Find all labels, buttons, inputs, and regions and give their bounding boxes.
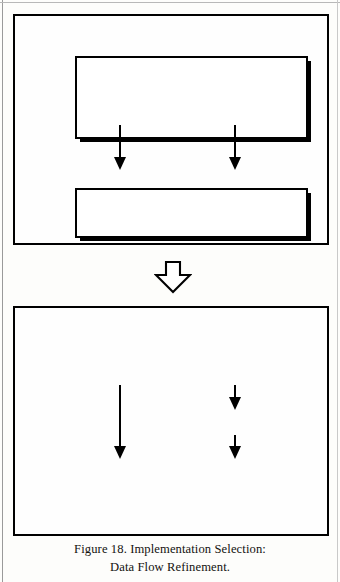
arrow-head [114, 157, 126, 170]
after-data-flow-arrow-left [119, 385, 121, 459]
before-sink-process-box [75, 188, 308, 238]
after-data-flow-arrow-from-transform [234, 435, 236, 460]
before-data-flow-arrow-right [234, 125, 236, 170]
figure-page: Figure 18. Implementation Selection: Dat… [0, 0, 340, 582]
figure-caption-line-2: Data Flow Refinement. [0, 558, 340, 576]
page-border-left [2, 0, 3, 582]
before-source-process-box [75, 56, 308, 139]
hollow-down-arrow-icon [154, 261, 192, 294]
before-refinement-panel [13, 14, 329, 245]
page-border-top [0, 2, 340, 3]
after-refinement-panel [13, 306, 329, 536]
figure-caption-line-1: Figure 18. Implementation Selection: [0, 540, 340, 558]
arrow-shaft [119, 125, 121, 159]
arrow-head [229, 397, 241, 410]
arrow-head [229, 157, 241, 170]
arrow-shaft [234, 125, 236, 159]
figure-caption: Figure 18. Implementation Selection: Dat… [0, 540, 340, 576]
arrow-head [114, 446, 126, 459]
page-border-right [337, 0, 338, 582]
refinement-transition-arrow [154, 261, 192, 294]
arrow-head [229, 446, 241, 459]
arrow-shaft [119, 385, 121, 448]
after-data-flow-arrow-to-transform [234, 385, 236, 411]
before-data-flow-arrow-left [119, 125, 121, 170]
